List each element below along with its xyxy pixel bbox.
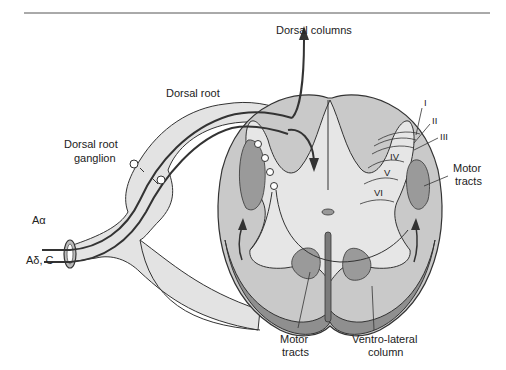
label-drg-2: ganglion xyxy=(74,152,116,164)
lamina-IV: IV xyxy=(390,151,400,162)
central-canal xyxy=(322,209,334,215)
spinal-cord-diagram: I II III IV V VI Dorsal columns Dorsa xyxy=(0,0,506,370)
label-a-alpha: Aα xyxy=(32,214,46,226)
lamina-I: I xyxy=(424,97,427,108)
label-motor-tracts-right-1: Motor xyxy=(453,162,481,174)
label-motor-tracts-right-2: tracts xyxy=(455,175,482,187)
label-drg-1: Dorsal root xyxy=(64,138,118,150)
label-ventrolateral-1: Ventro-lateral xyxy=(352,333,417,345)
label-dorsal-columns: Dorsal columns xyxy=(276,24,352,36)
motor-tract-left xyxy=(239,140,265,210)
label-a-delta-c: Aδ, C xyxy=(26,254,54,266)
label-motor-tracts-bottom-2: tracts xyxy=(282,346,309,358)
lamina-VI: VI xyxy=(374,187,383,198)
lamina-III: III xyxy=(440,131,448,142)
lamina-II: II xyxy=(432,115,437,126)
ventral-median-fissure xyxy=(325,232,331,322)
label-motor-tracts-bottom-1: Motor xyxy=(280,333,308,345)
motor-tract-right xyxy=(406,160,429,209)
lamina-V: V xyxy=(384,167,391,178)
label-ventrolateral-2: column xyxy=(368,346,403,358)
label-dorsal-root: Dorsal root xyxy=(166,87,220,99)
